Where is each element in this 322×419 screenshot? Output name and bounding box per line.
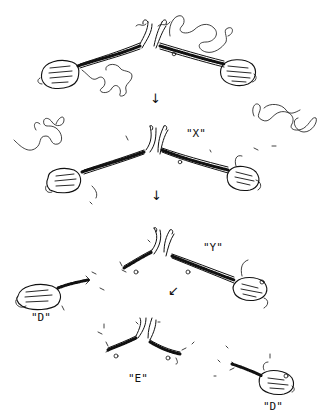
free-strand-left (14, 117, 64, 150)
arrow-down-1: ↓ (150, 92, 161, 105)
label-d-left: "D" (31, 312, 51, 323)
lower-coiled-strand (82, 64, 132, 96)
label-d-right: "D" (263, 401, 283, 412)
upper-coiled-strand (169, 16, 232, 53)
arrow-down-left-3: ↙ (168, 284, 179, 297)
free-strand-right (253, 104, 317, 132)
right-oval-body (221, 60, 257, 86)
stage-1-structure (38, 16, 256, 96)
stage-2-structure (14, 104, 316, 204)
arrow-down-2: ↓ (151, 189, 162, 202)
right-beaded-stalk (160, 43, 224, 67)
label-y: "Y" (203, 242, 223, 253)
label-e: "E" (128, 373, 148, 384)
label-x: "X" (186, 128, 206, 139)
left-beaded-stalk (78, 43, 140, 68)
central-hinge (136, 20, 170, 48)
stage-3-structure (16, 227, 268, 310)
left-oval-body (38, 60, 79, 88)
diagram-canvas (0, 0, 322, 419)
